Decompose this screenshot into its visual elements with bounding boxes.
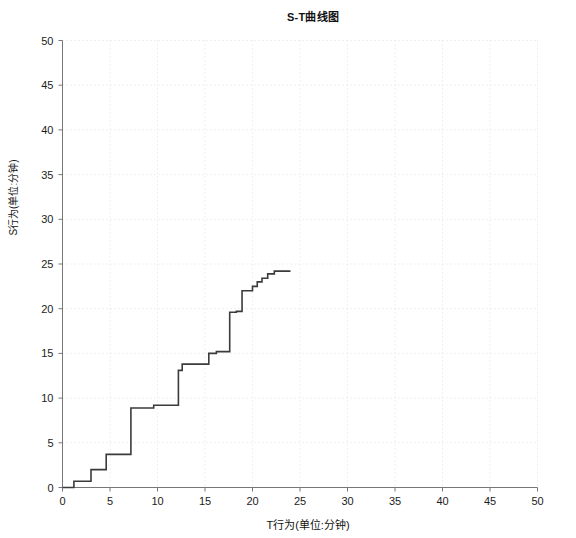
x-tick-label: 25 xyxy=(294,495,306,507)
y-tick-label: 35 xyxy=(41,169,53,181)
x-tick-label: 45 xyxy=(484,495,496,507)
axis-lines xyxy=(63,41,538,488)
y-tick-label: 15 xyxy=(41,347,53,359)
data-series-line xyxy=(63,271,291,487)
y-tick-label: 40 xyxy=(41,124,53,136)
y-tick-label: 50 xyxy=(41,35,53,47)
x-tick-label: 0 xyxy=(59,495,65,507)
y-tick-label: 25 xyxy=(41,258,53,270)
x-axis-label: T行为(单位:分钟) xyxy=(0,516,576,532)
y-tick-label: 45 xyxy=(41,79,53,91)
x-tick-label: 30 xyxy=(341,495,353,507)
gridlines xyxy=(63,41,538,488)
x-tick-label: 10 xyxy=(151,495,163,507)
plot-area: 0510152025303540455005101520253035404550 xyxy=(0,0,576,538)
y-tick-label: 0 xyxy=(47,482,53,494)
x-tick-label: 20 xyxy=(246,495,258,507)
y-tick-label: 20 xyxy=(41,303,53,315)
y-tick-label: 10 xyxy=(41,392,53,404)
x-tick-label: 35 xyxy=(389,495,401,507)
x-tick-label: 5 xyxy=(107,495,113,507)
y-tick-label: 5 xyxy=(47,437,53,449)
chart-container: S-T曲线图 S行为(单位:分钟) 0510152025303540455005… xyxy=(0,0,576,538)
y-tick-label: 30 xyxy=(41,213,53,225)
x-tick-label: 15 xyxy=(199,495,211,507)
series-S-T xyxy=(63,271,291,487)
axis-tick-labels: 0510152025303540455005101520253035404550 xyxy=(41,35,543,507)
x-tick-label: 50 xyxy=(531,495,543,507)
x-tick-label: 40 xyxy=(436,495,448,507)
